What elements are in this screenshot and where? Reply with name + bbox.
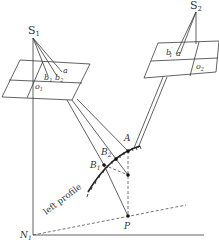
label-B2: B2: [100, 147, 112, 158]
label-N1: N1: [19, 230, 32, 241]
left-profile-curve: [87, 146, 141, 197]
label-P: P: [123, 221, 131, 231]
label-s2: S2: [190, 0, 202, 13]
label-B1: B1: [89, 160, 100, 171]
label-a: a: [63, 66, 68, 75]
label-a-prime: a′: [176, 47, 183, 58]
label-s1: S1: [28, 24, 40, 38]
label-b1: b1: [44, 73, 52, 83]
label-A: A: [123, 133, 131, 143]
label-o2: o2: [196, 62, 204, 72]
point-P: [126, 214, 130, 218]
point-B2: [114, 157, 118, 161]
stereo-geometry-figure: S1 S2 b1 b2 a o1 b′1 a′ o2 A B2 B1 P N1 …: [0, 0, 219, 247]
points: [102, 149, 130, 218]
ground-lines: [33, 151, 204, 235]
point-projection: [126, 173, 130, 177]
label-b1-prime: b′1: [166, 46, 173, 58]
diagram-canvas: S1 S2 b1 b2 a o1 b′1 a′ o2 A B2 B1 P N1 …: [0, 0, 219, 247]
label-o1: o1: [35, 82, 43, 92]
label-left-profile: left profile: [41, 181, 83, 216]
point-B1: [102, 163, 106, 167]
point-A: [126, 149, 130, 153]
